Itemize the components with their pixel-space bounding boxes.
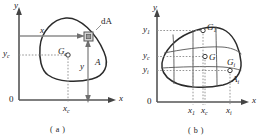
x1-axis-label: x1	[188, 106, 195, 115]
x-distance-label: x	[40, 26, 44, 35]
dA-label: dA	[101, 17, 112, 26]
y1-axis-label: y1	[143, 25, 150, 34]
panel-b-origin-label: 0	[147, 97, 152, 106]
panel-b-y-axis	[154, 9, 160, 102]
xi-axis-label: xi	[226, 106, 232, 115]
panel-a-origin-label: 0	[9, 95, 14, 104]
panel-b-x-axis-label: x	[252, 96, 256, 105]
panel-a-y-axis-label: y	[14, 1, 18, 10]
xc-axis-label-b: xc	[201, 106, 208, 115]
area-i-label: Ai	[232, 75, 239, 84]
panel-a-x-axis	[19, 97, 116, 103]
area-outline	[40, 18, 107, 81]
panel-b-drawing	[131, 0, 263, 139]
panel-b-y-axis-label: y	[153, 3, 157, 12]
yc-axis-label-b: yc	[143, 51, 150, 60]
panel-b-caption: ( b )	[188, 126, 204, 135]
centroid-1-marker	[201, 28, 205, 32]
centroid-total-marker	[203, 54, 207, 58]
figure-panel-a: y x 0 x y dA A Gc yc xc ( a )	[0, 0, 131, 139]
centroid-1-label: G1	[207, 23, 217, 32]
area-label: A	[95, 58, 101, 67]
dA-element	[84, 32, 93, 41]
yc-axis-label: yc	[3, 49, 10, 58]
figure-panel-b: y x 0 G1 G Gi Ai y1 yc yi x1 xc xi ( b )	[131, 0, 263, 139]
panel-a-caption: ( a )	[50, 125, 65, 134]
yi-axis-label: yi	[143, 65, 149, 74]
y-distance-label: y	[80, 62, 84, 71]
centroid-i-label: Gi	[227, 58, 235, 67]
xc-axis-label: xc	[63, 104, 70, 113]
y-distance-arrow	[85, 39, 91, 103]
centroid-label: Gc	[58, 47, 67, 56]
centroid-i-marker	[228, 68, 232, 72]
panel-a-y-axis	[16, 7, 22, 100]
x-distance-arrow	[20, 33, 85, 39]
panel-a-x-axis-label: x	[119, 94, 123, 103]
centroid-total-label: G	[209, 53, 216, 62]
